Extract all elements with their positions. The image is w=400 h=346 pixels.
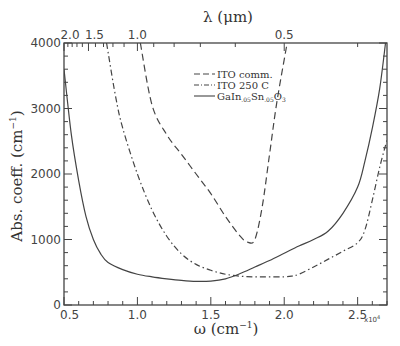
x-axis-title-main: ω (cm	[194, 320, 239, 338]
legend-formula-sub: 3	[282, 96, 286, 103]
y-tick-label: 2000	[30, 167, 61, 181]
x-tick-label: 1.0	[128, 308, 147, 322]
y-tick-label: 1000	[30, 233, 61, 247]
sci-note-exp: 4	[377, 314, 380, 320]
x-tick-label: 0.5	[60, 308, 79, 322]
x-scale-note: x104	[364, 314, 380, 324]
x-axis-title-end: )	[252, 320, 258, 338]
top-tick-label: 1.0	[128, 28, 147, 42]
y-tick-label: 3000	[30, 102, 61, 116]
legend-formula-sub: .05	[264, 96, 274, 103]
sci-note-base: x10	[364, 316, 377, 324]
legend-label-ito-250c: ITO 250 C	[217, 80, 269, 91]
y-axis-title-exp: −1	[8, 116, 18, 129]
axis-tick-labels: 0.51.01.52.02.5010002000300040002.01.51.…	[30, 28, 367, 322]
x-tick-label: 2.0	[275, 308, 294, 322]
legend: ITO comm. ITO 250 C GaIn.05Sn.05O3	[194, 69, 286, 103]
legend-formula-part: O	[274, 91, 282, 102]
y-axis-title: Abs. coeff. (cm−1)	[8, 110, 26, 242]
top-axis-title: λ (μm)	[203, 8, 253, 26]
legend-formula-sub: .05	[241, 96, 251, 103]
top-tick-label: 2.0	[60, 28, 79, 42]
y-axis-title-end: )	[8, 110, 26, 116]
x-axis-title: ω (cm−1)	[194, 320, 259, 338]
y-tick-label: 4000	[30, 36, 61, 50]
absorption-chart: 0.51.01.52.02.5010002000300040002.01.51.…	[0, 0, 400, 346]
top-tick-label: 1.5	[85, 28, 104, 42]
legend-formula-part: GaIn	[217, 91, 242, 102]
legend-label-ito-comm: ITO comm.	[217, 69, 273, 80]
top-tick-label: 0.5	[275, 28, 294, 42]
y-tick-label: 0	[53, 298, 61, 312]
legend-label-gain-sn-o: GaIn.05Sn.05O3	[217, 91, 286, 103]
legend-formula-part: Sn	[251, 91, 265, 102]
x-axis-title-exp: −1	[239, 320, 252, 330]
y-axis-title-main: Abs. coeff. (cm	[8, 130, 26, 243]
